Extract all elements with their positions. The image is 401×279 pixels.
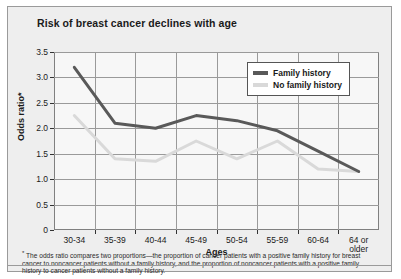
y-axis-tick-label: 2.0	[36, 123, 48, 133]
x-axis-tick	[217, 230, 218, 234]
footnote-text: The odds ratio compares two proportions—…	[22, 252, 360, 274]
y-axis-tick-label: 1.5	[36, 149, 48, 159]
y-axis-title: Odds ratio*	[16, 92, 26, 141]
x-axis-tick	[338, 230, 339, 234]
y-axis-tick-label: 3.5	[36, 47, 48, 57]
x-axis-tick	[176, 230, 177, 234]
x-axis-tick-label: 55-59	[267, 236, 289, 245]
x-axis-tick	[135, 230, 136, 234]
x-axis-tick-label: 30-34	[63, 236, 85, 245]
chart-figure: Risk of breast cancer declines with age …	[7, 6, 392, 272]
legend-item: Family history	[253, 67, 342, 79]
x-axis-tick	[257, 230, 258, 234]
x-axis-tick-label: 60-64	[307, 236, 329, 245]
y-axis-tick-label: 0	[43, 225, 48, 235]
x-axis-tick-label: 50-54	[226, 236, 248, 245]
chart-title: Risk of breast cancer declines with age	[37, 17, 237, 29]
chart-footnote: * The odds ratio compares two proportion…	[22, 250, 380, 275]
legend-swatch-icon	[253, 83, 268, 87]
y-axis-tick-label: 2.5	[36, 98, 48, 108]
x-axis-tick-label: 35-39	[104, 236, 126, 245]
x-axis-tick	[298, 230, 299, 234]
x-axis-tick-label: 45-49	[185, 236, 207, 245]
y-axis-tick-label: 1.0	[36, 174, 48, 184]
legend-swatch-icon	[253, 71, 268, 75]
x-axis-tick-label: 40-44	[145, 236, 167, 245]
y-axis-tick-label: 3.0	[36, 72, 48, 82]
legend-label: Family history	[273, 68, 331, 78]
footnote-marker: *	[22, 250, 24, 256]
y-axis-tick-label: 0.5	[36, 200, 48, 210]
chart-legend: Family historyNo family history	[247, 62, 350, 96]
legend-label: No family history	[273, 80, 342, 90]
legend-item: No family history	[253, 79, 342, 91]
x-axis-tick	[95, 230, 96, 234]
y-axis-tick	[50, 230, 54, 231]
bottom-rule	[8, 265, 391, 266]
